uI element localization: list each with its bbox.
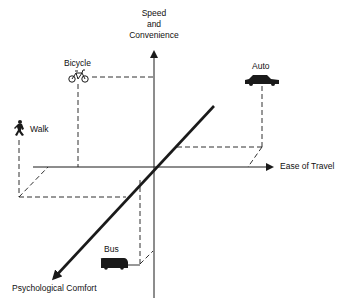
bicycle-projection <box>78 77 154 167</box>
vertical-axis-label-line-2: and <box>124 19 184 30</box>
bus-projection <box>140 180 153 264</box>
bicycle-label: Bicycle <box>64 58 91 69</box>
vertical-axis-label-line-3: Convenience <box>124 30 184 41</box>
vertical-axis-label-line-1: Speed <box>124 8 184 19</box>
bicycle-icon <box>69 70 88 82</box>
bus-icon <box>101 258 128 270</box>
bus-label: Bus <box>104 244 119 255</box>
auto-projection <box>174 86 262 167</box>
walk-projection <box>19 140 126 197</box>
walking-person-icon <box>14 120 24 136</box>
horizontal-axis-label: Ease of Travel <box>280 161 334 172</box>
walk-label: Walk <box>30 124 49 135</box>
depth-axis-label: Psychological Comfort <box>12 283 97 294</box>
car-icon <box>245 75 279 86</box>
depth-axis <box>54 106 214 278</box>
vertical-axis-label: Speed and Convenience <box>124 8 184 41</box>
auto-label: Auto <box>252 61 270 72</box>
diagram-canvas <box>0 0 347 298</box>
